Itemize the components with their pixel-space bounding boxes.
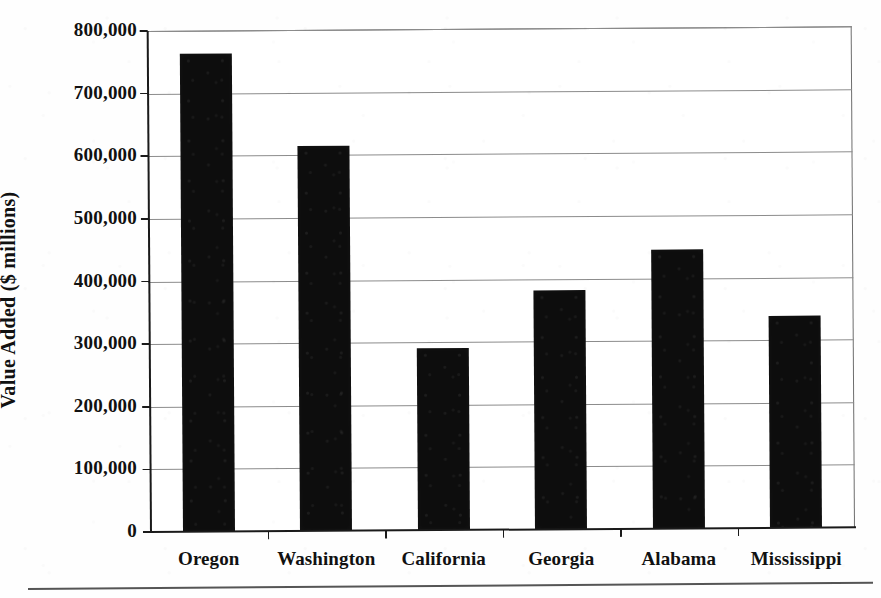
scanned-page: 0100,000200,000300,000400,000500,000600,… [0, 0, 881, 598]
y-tick-label: 800,000 [0, 19, 137, 41]
y-tick-label: 600,000 [0, 144, 137, 166]
page-rule [28, 582, 873, 590]
x-tick-label: Washington [268, 548, 386, 570]
bar [769, 315, 823, 528]
x-tick-label: California [385, 548, 503, 570]
chart-plot-area [147, 26, 855, 532]
y-tick-label: 400,000 [0, 270, 137, 292]
bar [534, 291, 588, 530]
y-tick-label: 700,000 [0, 82, 137, 104]
x-tick-label: Georgia [503, 548, 621, 570]
bar [416, 348, 469, 531]
x-tick-label: Oregon [150, 548, 268, 570]
y-tick-label: 200,000 [0, 395, 137, 417]
bar [651, 249, 705, 529]
y-axis-title: Value Added ($ millions) [0, 150, 20, 450]
y-tick-label: 300,000 [0, 332, 137, 354]
bar [179, 54, 234, 532]
y-tick-label: 500,000 [0, 207, 137, 229]
x-tick-label: Mississippi [738, 548, 856, 570]
y-tick-label: 100,000 [0, 457, 137, 479]
y-tick-label: 0 [0, 520, 137, 542]
bar [298, 146, 353, 531]
x-tick-label: Alabama [620, 548, 738, 570]
